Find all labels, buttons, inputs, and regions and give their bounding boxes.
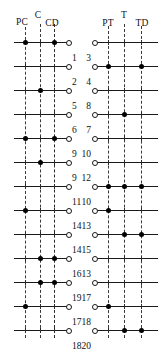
event-dot <box>139 184 144 189</box>
row-axis-line <box>94 306 158 307</box>
row-endpoint-circle <box>92 112 98 118</box>
row-value-label: 13 <box>82 270 92 280</box>
row-tick <box>124 256 125 261</box>
row-tick <box>141 280 142 285</box>
row-tick <box>108 160 109 165</box>
event-dot <box>122 232 127 237</box>
row-axis-line <box>94 258 158 259</box>
row-value-label: 7 <box>86 126 91 136</box>
row-value-label: 18 <box>82 318 92 328</box>
row-tick <box>108 136 109 141</box>
row-value-label: 10 <box>82 198 92 208</box>
row-tick <box>124 136 125 141</box>
row-endpoint-circle <box>92 304 98 310</box>
row-axis-line <box>94 210 158 211</box>
row-tick <box>108 112 109 117</box>
row-value-label: 3 <box>86 54 91 64</box>
row-value-label: 13 <box>82 222 92 232</box>
row-tick <box>141 160 142 165</box>
row-tick <box>124 40 125 45</box>
event-dot <box>122 328 127 333</box>
row-endpoint-circle <box>92 280 98 286</box>
pt-guide <box>108 26 109 338</box>
column-label-td: TD <box>135 19 148 29</box>
row-axis-line <box>94 42 158 43</box>
row-tick <box>141 136 142 141</box>
event-dot <box>106 304 111 309</box>
event-dot <box>139 328 144 333</box>
row-tick <box>124 88 125 93</box>
event-dot <box>106 64 111 69</box>
row-endpoint-circle <box>92 328 98 334</box>
row-tick <box>124 64 125 69</box>
row-endpoint-circle <box>92 88 98 94</box>
event-dot <box>122 112 127 117</box>
row-tick <box>124 304 125 309</box>
row-tick <box>108 328 109 333</box>
event-dot <box>106 184 111 189</box>
event-dot <box>106 208 111 213</box>
t-guide <box>124 24 125 338</box>
row-tick <box>124 160 125 165</box>
row-axis-line <box>94 282 158 283</box>
row-tick <box>141 40 142 45</box>
row-axis-line <box>94 162 158 163</box>
column-label-t: T <box>121 11 127 21</box>
row-tick <box>141 304 142 309</box>
row-tick <box>141 112 142 117</box>
td-guide <box>141 26 142 338</box>
row-axis-line <box>94 138 158 139</box>
row-endpoint-circle <box>92 208 98 214</box>
row-endpoint-circle <box>92 40 98 46</box>
row-endpoint-circle <box>92 184 98 190</box>
row-value-label: 20 <box>82 342 92 352</box>
row-axis-line <box>94 66 158 67</box>
row-tick <box>124 280 125 285</box>
row-tick <box>124 208 125 213</box>
row-tick <box>141 208 142 213</box>
row-endpoint-circle <box>92 136 98 142</box>
event-dot <box>139 232 144 237</box>
row-tick <box>108 40 109 45</box>
row-tick <box>108 88 109 93</box>
row-value-label: 4 <box>86 78 91 88</box>
row-value-label: 17 <box>82 294 92 304</box>
row-endpoint-circle <box>92 160 98 166</box>
row-tick <box>141 256 142 261</box>
row-value-label: 8 <box>86 102 91 112</box>
row-value-label: 15 <box>82 246 92 256</box>
row-endpoint-circle <box>92 232 98 238</box>
event-dot <box>122 184 127 189</box>
row-tick <box>108 232 109 237</box>
event-dot <box>139 64 144 69</box>
row-value-label: 12 <box>82 174 92 184</box>
row-tick <box>108 256 109 261</box>
row-endpoint-circle <box>92 256 98 262</box>
row-tick <box>141 88 142 93</box>
row-endpoint-circle <box>92 64 98 70</box>
row-axis-line <box>94 90 158 91</box>
row-value-label: 10 <box>82 150 92 160</box>
row-tick <box>108 280 109 285</box>
